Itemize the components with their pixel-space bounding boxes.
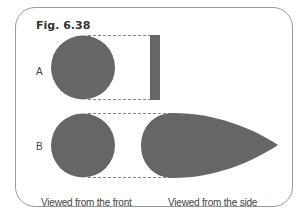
diagram-shapes — [0, 0, 307, 223]
disc-a-side-view — [150, 35, 160, 100]
teardrop-b-side-view — [141, 113, 278, 178]
caption-front-view: Viewed from the front — [41, 197, 132, 208]
row-b-shapes — [51, 113, 278, 178]
circle-a-front-view — [51, 36, 115, 100]
caption-side-view: Viewed from the side — [168, 197, 257, 208]
row-a-shapes — [51, 35, 160, 100]
circle-b-front-view — [51, 114, 115, 178]
